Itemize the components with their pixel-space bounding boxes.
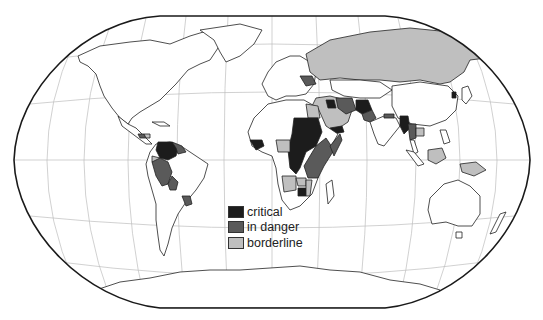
russia	[306, 28, 500, 84]
critical-swatch	[228, 206, 244, 218]
north-america	[78, 30, 225, 124]
legend-label: in danger	[247, 221, 299, 233]
india	[370, 116, 400, 146]
egypt	[306, 104, 320, 118]
zambia	[296, 178, 306, 186]
legend-item-critical: critical	[228, 204, 303, 220]
central-america	[118, 116, 152, 144]
legend-label: critical	[247, 206, 282, 218]
japan	[462, 86, 472, 104]
antarctica	[90, 266, 440, 308]
new-zealand	[490, 212, 506, 234]
nepal	[384, 114, 394, 118]
angola	[282, 176, 296, 192]
legend-label: borderline	[247, 237, 303, 249]
zimbabwe	[298, 188, 306, 196]
madagascar	[326, 180, 334, 204]
thailand	[408, 124, 416, 140]
cambodia	[416, 128, 424, 136]
cuba	[152, 122, 170, 126]
central-asia	[330, 80, 392, 98]
borneo	[428, 148, 446, 164]
philippines	[440, 130, 450, 144]
tasmania	[456, 232, 462, 238]
nigeria	[276, 140, 290, 152]
legend-item-borderline: borderline	[228, 235, 303, 251]
map-legend: critical in danger borderline	[228, 204, 303, 251]
australia	[428, 180, 480, 226]
korea	[452, 92, 456, 98]
papua-new-guinea	[460, 162, 486, 176]
iraq	[326, 100, 336, 108]
borderline-swatch	[228, 237, 244, 249]
legend-item-in-danger: in danger	[228, 220, 303, 236]
world-map	[0, 0, 543, 320]
in-danger-swatch	[228, 221, 244, 233]
